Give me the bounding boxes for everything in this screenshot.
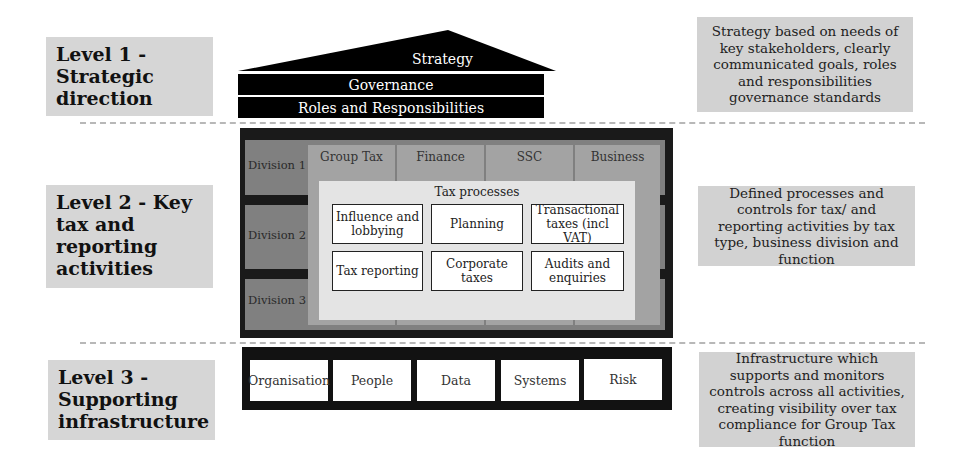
- division-2-text: Division 2: [248, 228, 306, 242]
- level-2-label: Level 2 - Key tax and reporting activiti…: [46, 185, 213, 288]
- level-3-description-text: Infrastructure which supports and monito…: [705, 350, 909, 449]
- division-2-label: Division 2: [248, 225, 306, 245]
- process-text: Transactional taxes (incl VAT): [532, 203, 623, 245]
- process-audits-enquiries: Audits and enquiries: [531, 251, 624, 291]
- infra-text: Data: [441, 373, 471, 388]
- separator-2: [80, 342, 925, 344]
- roof-strategy: Strategy: [370, 48, 515, 70]
- level-2-description-text: Defined processes and controls for tax/ …: [704, 185, 909, 268]
- level-3-label: Level 3 - Supporting infrastructure: [48, 360, 215, 440]
- level-1-description: Strategy based on needs of key stakehold…: [697, 17, 913, 112]
- level-1-line: Strategic: [56, 65, 203, 87]
- level-3-description: Infrastructure which supports and monito…: [699, 352, 915, 447]
- tax-processes-title: Tax processes: [319, 185, 635, 199]
- roles-text: Roles and Responsibilities: [298, 100, 484, 116]
- infra-text: Organisation: [248, 373, 330, 388]
- process-tax-reporting: Tax reporting: [332, 251, 423, 291]
- division-1-label: Division 1: [248, 155, 306, 175]
- governance-text: Governance: [348, 77, 433, 93]
- level-1-label: Level 1 - Strategic direction: [46, 37, 213, 116]
- process-text: Planning: [450, 217, 504, 231]
- infra-text: Risk: [609, 372, 636, 387]
- process-text: Audits and enquiries: [532, 257, 623, 285]
- level-1-line: direction: [56, 87, 203, 109]
- level-2-line: Level 2 - Key: [56, 191, 203, 213]
- level-2-line: tax and: [56, 213, 203, 235]
- group-tax-text: Group Tax: [320, 150, 383, 164]
- process-transactional-taxes: Transactional taxes (incl VAT): [531, 204, 624, 244]
- level-2-line: reporting: [56, 235, 203, 257]
- process-planning: Planning: [431, 204, 523, 244]
- infra-people: People: [333, 360, 411, 401]
- level-2-description: Defined processes and controls for tax/ …: [698, 186, 915, 266]
- ssc-text: SSC: [517, 150, 542, 164]
- process-corporate-taxes: Corporate taxes: [431, 251, 523, 291]
- infra-systems: Systems: [501, 360, 579, 401]
- process-influence-lobbying: Influence and lobbying: [332, 204, 423, 244]
- level-1-line: Level 1 -: [56, 43, 203, 65]
- function-label-ssc: SSC: [486, 150, 573, 164]
- business-text: Business: [591, 150, 645, 164]
- infra-organisation: Organisation: [250, 360, 328, 401]
- strategy-text: Strategy: [412, 51, 473, 67]
- infra-text: People: [351, 373, 393, 388]
- function-label-group-tax: Group Tax: [308, 150, 395, 164]
- separator-1: [80, 122, 925, 124]
- process-text: Corporate taxes: [432, 257, 522, 285]
- level-3-line: infrastructure: [58, 410, 205, 432]
- function-label-business: Business: [575, 150, 660, 164]
- division-3-label: Division 3: [248, 290, 306, 310]
- level-1-description-text: Strategy based on needs of key stakehold…: [703, 23, 907, 106]
- level-3-line: Level 3 -: [58, 366, 205, 388]
- division-3-text: Division 3: [248, 293, 306, 307]
- roof-governance: Governance: [238, 74, 544, 95]
- finance-text: Finance: [416, 150, 465, 164]
- tax-processes-title-text: Tax processes: [435, 185, 520, 199]
- infra-text: Systems: [514, 373, 567, 388]
- process-text: Influence and lobbying: [333, 210, 422, 238]
- process-text: Tax reporting: [336, 264, 418, 278]
- function-label-finance: Finance: [397, 150, 484, 164]
- level-3-line: Supporting: [58, 388, 205, 410]
- infra-data: Data: [417, 360, 495, 401]
- level-2-line: activities: [56, 257, 203, 279]
- infra-risk: Risk: [584, 359, 662, 400]
- division-1-text: Division 1: [248, 158, 306, 172]
- roof-roles: Roles and Responsibilities: [238, 97, 544, 118]
